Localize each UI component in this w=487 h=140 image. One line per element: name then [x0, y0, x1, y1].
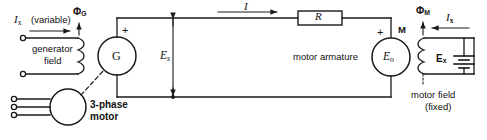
terminal-bottom-left	[20, 71, 25, 76]
label-motor-field-line2: (fixed)	[425, 102, 451, 112]
label-motor-armature: motor armature	[293, 52, 358, 62]
label-generator-field-line2: field	[44, 56, 61, 66]
label-phi-m: ΦM	[416, 6, 430, 17]
label-motor-symbol: M	[398, 25, 406, 35]
circuit-diagram: Ix (variable) ΦG generator field G + Es …	[0, 0, 487, 140]
label-ex: Ex	[436, 54, 446, 65]
label-resistor: R	[315, 11, 322, 22]
label-generator-field-line1: generator	[32, 44, 73, 54]
label-variable: (variable)	[31, 15, 71, 25]
label-current-i: I	[244, 1, 248, 12]
three-phase-motor-circle	[50, 89, 86, 125]
label-eo: Eo	[383, 51, 394, 64]
junction-dot-es-bottom	[171, 95, 175, 99]
terminal-top-left	[20, 35, 25, 40]
label-plus-motor: +	[377, 27, 383, 38]
label-generator-symbol: G	[112, 50, 121, 62]
generator-field-coil	[78, 38, 84, 74]
label-es: Es	[160, 50, 170, 63]
three-phase-terminal-3	[11, 112, 16, 117]
label-three-phase-line2: motor	[90, 112, 118, 122]
label-plus-generator: +	[122, 25, 128, 36]
label-phi-g: ΦG	[73, 7, 87, 18]
label-motor-field-line1: motor field	[411, 90, 455, 100]
mechanical-shaft-coupling	[81, 70, 104, 95]
motor-field-coil	[418, 38, 424, 74]
circuit-schematic-svg	[0, 0, 487, 140]
label-three-phase-line1: 3-phase	[90, 100, 128, 110]
label-ix-left: Ix	[14, 14, 21, 26]
three-phase-terminal-2	[11, 104, 16, 109]
three-phase-terminal-1	[11, 96, 16, 101]
label-ix-right: Ix	[446, 12, 453, 24]
